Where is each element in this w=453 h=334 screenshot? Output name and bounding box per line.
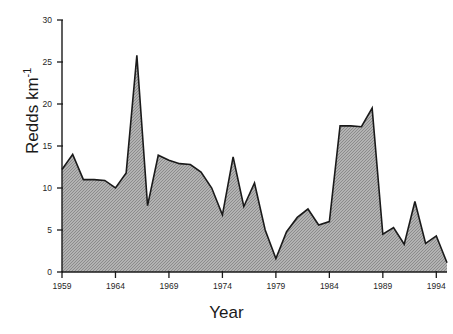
y-axis-label-exponent: -1	[21, 68, 33, 78]
x-axis-label: Year	[0, 303, 453, 323]
y-tick-label: 5	[47, 225, 52, 235]
data-area	[62, 55, 447, 272]
x-tick-label: 1989	[373, 281, 392, 291]
y-axis-label: Redds km-1	[21, 31, 43, 191]
x-tick-label: 1974	[213, 281, 232, 291]
y-tick-label: 25	[43, 57, 53, 67]
x-tick-label: 1994	[427, 281, 446, 291]
y-tick-label: 20	[43, 99, 53, 109]
y-axis-label-base: Redds km	[23, 77, 42, 154]
y-axis-ticks: 051015202530	[43, 15, 63, 277]
x-tick-label: 1969	[159, 281, 178, 291]
y-tick-label: 15	[43, 141, 53, 151]
chart-figure: Redds km-1 Year 051015202530 19591964196…	[0, 0, 453, 334]
y-tick-label: 10	[43, 183, 53, 193]
area-chart-plot: 051015202530 195919641969197419791984198…	[0, 0, 453, 334]
y-tick-label: 30	[43, 15, 53, 25]
x-axis-ticks: 19591964196919741979198419891994	[53, 271, 446, 291]
x-tick-label: 1959	[53, 281, 72, 291]
x-tick-label: 1964	[106, 281, 125, 291]
x-tick-label: 1984	[320, 281, 339, 291]
y-tick-label: 0	[47, 267, 52, 277]
x-tick-label: 1979	[266, 281, 285, 291]
